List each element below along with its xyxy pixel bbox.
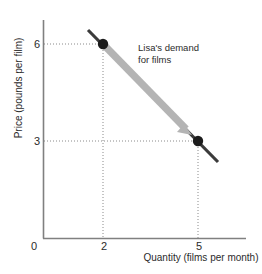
x-axis-title: Quantity (films per month) bbox=[143, 252, 258, 263]
demand-curve-chart: 6 3 2 5 0 Price (pounds per film) Quanti… bbox=[0, 0, 262, 274]
annotation-line-2: for films bbox=[138, 54, 172, 65]
x-tick-label-2: 2 bbox=[101, 240, 107, 252]
data-point-2-6 bbox=[98, 39, 108, 49]
data-point-5-3 bbox=[193, 136, 203, 146]
x-tick-label-5: 5 bbox=[196, 240, 202, 252]
y-axis-title: Price (pounds per film) bbox=[13, 38, 24, 139]
origin-label: 0 bbox=[31, 240, 37, 252]
y-tick-label-6: 6 bbox=[34, 38, 40, 50]
annotation-line-1: Lisa's demand bbox=[138, 42, 199, 53]
chart-canvas: 6 3 2 5 0 Price (pounds per film) Quanti… bbox=[0, 0, 262, 274]
y-tick-label-3: 3 bbox=[34, 135, 40, 147]
